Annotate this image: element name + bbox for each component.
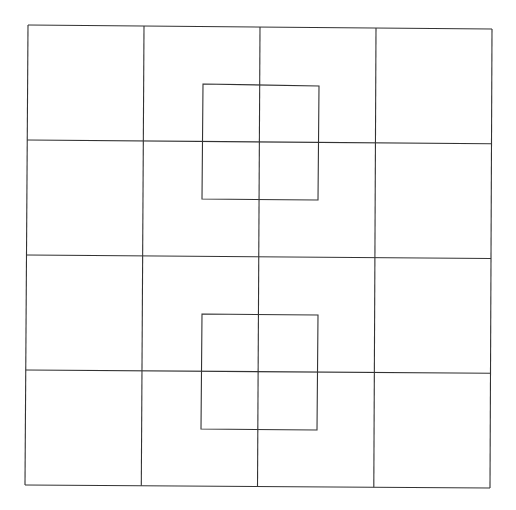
grid-diagram bbox=[0, 0, 516, 510]
diagram-canvas bbox=[0, 0, 516, 510]
outer-grid bbox=[25, 25, 492, 488]
